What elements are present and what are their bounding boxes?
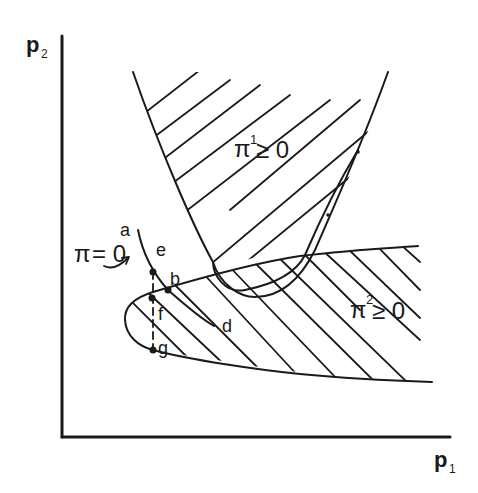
point-b-label: b bbox=[170, 269, 180, 289]
point-g-marker bbox=[150, 347, 157, 354]
x-axis-label-sub: 1 bbox=[449, 462, 456, 476]
profit-regions-diagram: p 2 p 1 bbox=[0, 0, 478, 493]
y-axis-label-sub: 2 bbox=[41, 47, 48, 61]
y-axis-label: p 2 bbox=[26, 32, 48, 61]
pi-symbol: π bbox=[74, 240, 91, 267]
pi1-relation: ≥ 0 bbox=[256, 136, 289, 163]
pi2-symbol: π bbox=[350, 296, 367, 323]
pi2-region-label: π 2 ≥ 0 bbox=[350, 292, 405, 324]
y-axis-label-text: p bbox=[26, 32, 39, 57]
pi1-vertex-mark bbox=[356, 150, 360, 154]
pi2-relation: ≥ 0 bbox=[372, 297, 405, 324]
pi2-upper-boundary bbox=[153, 246, 418, 292]
point-a-label: a bbox=[120, 220, 131, 240]
point-f-marker bbox=[149, 295, 156, 302]
point-e-label: e bbox=[156, 240, 166, 260]
pi-zero-label: π = 0 bbox=[74, 240, 126, 267]
x-axis-label-text: p bbox=[434, 447, 447, 472]
point-g-label: g bbox=[158, 338, 168, 358]
pi1-symbol: π bbox=[234, 135, 251, 162]
point-d-label: d bbox=[222, 316, 232, 336]
point-e-marker bbox=[150, 269, 157, 276]
x-axis-label: p 1 bbox=[434, 447, 456, 476]
pi1-vertex-mark bbox=[326, 213, 330, 217]
pi1-region-label: π 1 ≥ 0 bbox=[234, 132, 289, 163]
pi-zero-relation: = 0 bbox=[92, 240, 126, 267]
